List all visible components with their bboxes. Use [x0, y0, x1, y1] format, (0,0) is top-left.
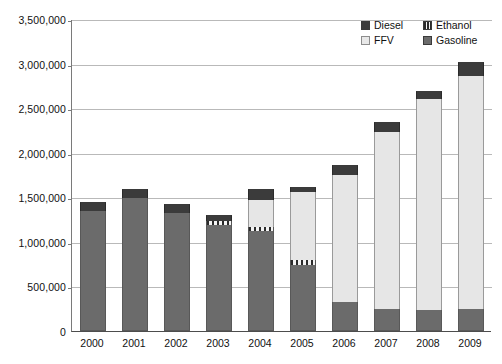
y-axis-labels: 3,500,000 3,000,000 2,500,000 2,000,000 …	[0, 20, 66, 332]
bar-segment-diesel	[80, 202, 106, 211]
bar-segment-gasoline	[332, 302, 358, 331]
bar-segment-ffv	[458, 76, 484, 310]
x-tick-label: 2001	[113, 337, 155, 349]
x-tick-label: 2000	[71, 337, 113, 349]
bar-segment-gasoline	[248, 231, 274, 331]
legend-item-diesel: Diesel	[361, 20, 423, 31]
bar-segment-gasoline	[458, 309, 484, 331]
bar-segment-diesel	[332, 165, 358, 175]
bar-segment-ffv	[332, 175, 358, 302]
bar-segment-diesel	[458, 62, 484, 76]
legend-item-gasoline: Gasoline	[423, 35, 493, 46]
stacked-bar-chart: 3,500,000 3,000,000 2,500,000 2,000,000 …	[0, 0, 502, 364]
legend-swatch-gasoline-icon	[423, 36, 432, 45]
y-tick-label: 3,000,000	[18, 59, 66, 71]
bar-segment-diesel	[290, 187, 316, 192]
legend-label: Ethanol	[436, 20, 472, 31]
bar-segment-gasoline	[80, 211, 106, 331]
y-tick-label: 0	[60, 326, 66, 338]
bar-segment-gasoline	[290, 265, 316, 331]
bar-segment-gasoline	[374, 309, 400, 331]
x-tick-label: 2008	[407, 337, 449, 349]
x-tick-label: 2005	[281, 337, 323, 349]
legend-label: Gasoline	[436, 35, 477, 46]
bar-segment-ethanol	[290, 260, 316, 265]
x-tick-label: 2002	[155, 337, 197, 349]
bar-segment-ffv	[416, 99, 442, 310]
bar-segment-ffv	[374, 132, 400, 309]
gridline	[72, 65, 492, 66]
y-tick-label: 3,500,000	[18, 14, 66, 26]
y-tick-label: 1,500,000	[18, 192, 66, 204]
bar-segment-diesel	[206, 215, 232, 221]
bar-segment-diesel	[374, 122, 400, 132]
chart-legend: Diesel Ethanol FFV Gasoline	[361, 18, 493, 48]
x-tick-label: 2009	[449, 337, 491, 349]
bar-segment-gasoline	[122, 198, 148, 331]
bar-segment-diesel	[416, 91, 442, 99]
x-tick-label: 2004	[239, 337, 281, 349]
y-tick-label: 2,500,000	[18, 103, 66, 115]
legend-swatch-diesel-icon	[361, 21, 370, 30]
x-tick-label: 2007	[365, 337, 407, 349]
bar-segment-gasoline	[416, 310, 442, 331]
bar-segment-ffv	[248, 200, 274, 227]
legend-swatch-ffv-icon	[361, 36, 370, 45]
legend-label: FFV	[374, 35, 394, 46]
y-tick-label: 2,000,000	[18, 148, 66, 160]
bar-segment-gasoline	[206, 225, 232, 331]
y-tick-label: 500,000	[27, 281, 66, 293]
legend-item-ffv: FFV	[361, 35, 423, 46]
plot-area	[71, 20, 491, 332]
bar-segment-diesel	[164, 204, 190, 213]
x-axis-labels: 2000200120022003200420052006200720082009	[71, 334, 491, 356]
bar-segment-ffv	[290, 192, 316, 260]
legend-item-ethanol: Ethanol	[423, 20, 493, 31]
legend-swatch-ethanol-icon	[423, 21, 432, 30]
bar-segment-ethanol	[248, 227, 274, 231]
bar-segment-diesel	[248, 189, 274, 200]
bar-segment-ethanol	[206, 221, 232, 225]
x-tick-label: 2003	[197, 337, 239, 349]
x-tick-label: 2006	[323, 337, 365, 349]
bar-segment-diesel	[122, 189, 148, 198]
y-tick-label: 1,000,000	[18, 237, 66, 249]
legend-label: Diesel	[374, 20, 403, 31]
bar-segment-gasoline	[164, 213, 190, 331]
